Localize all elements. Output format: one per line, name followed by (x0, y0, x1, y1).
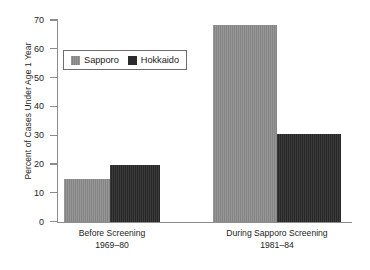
y-tick-label-70: 70 (0, 15, 44, 25)
y-tick-20 (50, 163, 58, 164)
sapporo-swatch-icon (71, 56, 80, 65)
y-tick-50 (50, 77, 58, 78)
legend-label-hokkaido: Hokkaido (141, 55, 179, 65)
x-axis-category-label-0: Before Screening 1969–80 (52, 228, 172, 251)
y-tick-label-40: 40 (0, 101, 44, 111)
bar-chart: Percent of Cases Under Age 1 Year 010203… (0, 0, 370, 270)
y-tick-70 (50, 19, 58, 20)
y-tick-label-10: 10 (0, 188, 44, 198)
y-tick-10 (50, 192, 58, 193)
category-label-line1: Before Screening (52, 228, 172, 240)
bar-sapporo-group-0 (64, 179, 110, 222)
category-label-line1: During Sapporo Screening (207, 228, 347, 240)
bar-sapporo-group-1 (213, 25, 277, 222)
y-tick-label-20: 20 (0, 159, 44, 169)
category-label-line2: 1981–84 (207, 240, 347, 252)
x-axis-category-label-1: During Sapporo Screening 1981–84 (207, 228, 347, 251)
chart-legend: Sapporo Hokkaido (63, 50, 187, 70)
legend-entry-hokkaido: Hokkaido (128, 55, 179, 65)
y-tick-label-30: 30 (0, 130, 44, 140)
y-tick-label-0: 0 (0, 217, 44, 227)
y-tick-30 (50, 135, 58, 136)
y-tick-0 (50, 221, 58, 222)
y-tick-40 (50, 106, 58, 107)
y-tick-60 (50, 48, 58, 49)
bar-hokkaido-group-0 (110, 165, 160, 222)
y-tick-label-50: 50 (0, 73, 44, 83)
legend-label-sapporo: Sapporo (84, 55, 119, 65)
bar-hokkaido-group-1 (277, 134, 341, 222)
legend-entry-sapporo: Sapporo (71, 55, 119, 65)
y-tick-label-60: 60 (0, 44, 44, 54)
hokkaido-swatch-icon (128, 56, 137, 65)
category-label-line2: 1969–80 (52, 240, 172, 252)
